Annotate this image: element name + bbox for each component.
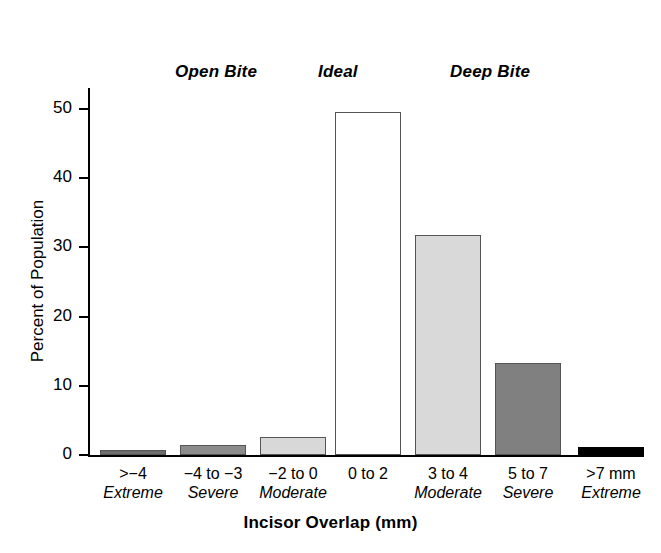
x-category-5: 3 to 4Moderate [403, 464, 493, 502]
bar-chart-figure: Open Bite Ideal Deep Bite 50403020100 Pe… [0, 0, 661, 553]
group-label-ideal: Ideal [318, 62, 358, 82]
bar-7 [578, 447, 644, 455]
x-category-1: >−4Extreme [88, 464, 178, 502]
x-category-2: −4 to −3Severe [168, 464, 258, 502]
x-category-label: >−4 [88, 464, 178, 483]
bar-2 [180, 445, 246, 455]
x-category-sublabel: Severe [483, 483, 573, 502]
x-axis-line [88, 455, 644, 457]
y-tick-label-50: 50 [26, 98, 72, 118]
x-category-sublabel: Moderate [403, 483, 493, 502]
x-category-label: −4 to −3 [168, 464, 258, 483]
x-category-label: 3 to 4 [403, 464, 493, 483]
x-category-label: >7 mm [566, 464, 656, 483]
group-label-open-bite: Open Bite [175, 62, 257, 82]
y-axis-title: Percent of Population [28, 151, 48, 411]
bar-5 [415, 235, 481, 455]
x-category-sublabel: Moderate [248, 483, 338, 502]
x-category-4: 0 to 2 [323, 464, 413, 483]
x-category-sublabel: Extreme [566, 483, 656, 502]
bar-1 [100, 450, 166, 455]
x-category-sublabel: Severe [168, 483, 258, 502]
plot-area [88, 88, 644, 455]
x-category-sublabel: Extreme [88, 483, 178, 502]
bar-6 [495, 363, 561, 455]
x-category-6: 5 to 7Severe [483, 464, 573, 502]
x-axis-title: Incisor Overlap (mm) [0, 513, 661, 533]
x-category-label: 0 to 2 [323, 464, 413, 483]
group-label-deep-bite: Deep Bite [450, 62, 530, 82]
x-category-label: 5 to 7 [483, 464, 573, 483]
y-tick-label-0: 0 [26, 444, 72, 464]
bar-3 [260, 437, 326, 455]
x-category-7: >7 mmExtreme [566, 464, 656, 502]
bar-4 [335, 112, 401, 455]
